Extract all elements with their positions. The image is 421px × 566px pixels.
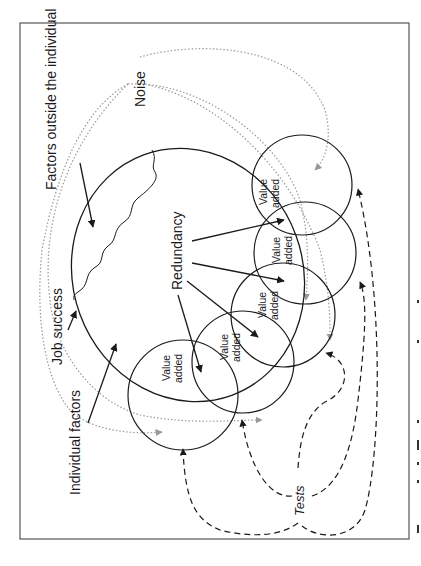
job-success-ellipse xyxy=(36,115,340,434)
label-tests: Tests xyxy=(292,485,307,516)
label-redundancy: Redundancy xyxy=(169,211,185,290)
label-job-success: Job success xyxy=(49,288,65,365)
value-added-3-line2: added xyxy=(268,291,280,320)
value-added-4-line2: added xyxy=(230,333,242,362)
value-added-5-line1: Value xyxy=(160,355,172,381)
label-noise: Noise xyxy=(132,71,148,107)
value-added-5-line2: added xyxy=(172,354,184,383)
value-added-circles xyxy=(128,135,356,450)
value-added-2-line1: Value xyxy=(270,237,282,263)
value-added-4-line1: Value xyxy=(218,334,230,360)
wavy-boundary xyxy=(74,150,156,300)
value-added-circle-3 xyxy=(231,263,335,367)
value-added-2-line2: added xyxy=(282,236,294,265)
label-factors-outside: Factors outside the individual xyxy=(43,9,59,190)
job-success-diagram: Factors outside the individual Noise Job… xyxy=(0,0,421,566)
value-added-1-line1: Value xyxy=(257,179,269,205)
value-added-3-line1: Value xyxy=(256,292,268,318)
value-added-1-line2: added xyxy=(269,179,281,208)
solid-arrows xyxy=(68,163,284,423)
label-individual-factors: Individual factors xyxy=(67,390,83,495)
cut-off-caption xyxy=(417,300,419,533)
